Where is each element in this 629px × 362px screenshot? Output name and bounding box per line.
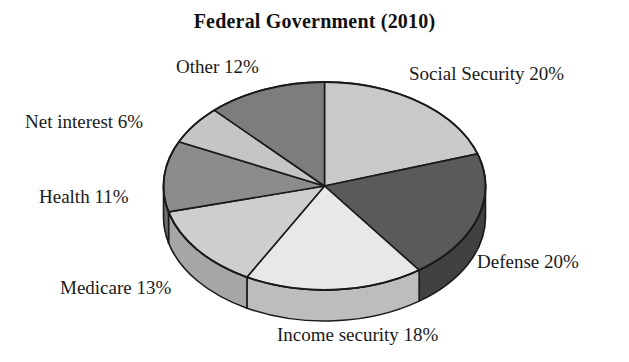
slice-label-income-security: Income security 18% [277,325,438,346]
slice-label-social-security: Social Security 20% [409,64,564,85]
slice-label-defense: Defense 20% [477,252,579,273]
slice-label-health: Health 11% [39,187,129,208]
slice-label-other: Other 12% [176,57,259,78]
slice-label-net-interest: Net interest 6% [25,112,143,133]
pie-chart-graphic [0,0,629,362]
slice-label-medicare: Medicare 13% [60,278,171,299]
pie-chart-figure: Federal Government (2010) Social Securit… [0,0,629,362]
